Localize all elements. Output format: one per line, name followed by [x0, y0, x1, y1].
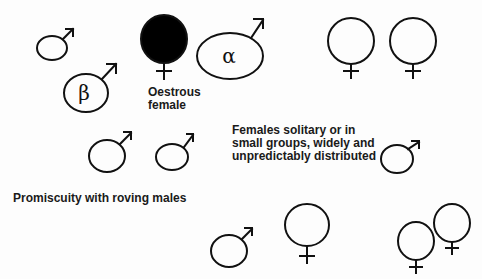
female-symbol	[390, 18, 436, 78]
female-symbol	[434, 204, 470, 254]
beta-male-symbol: β	[64, 64, 116, 112]
females-distribution-note: Females solitary or in small groups, wid…	[232, 124, 376, 163]
male-symbol	[211, 228, 252, 267]
oestrous-female-symbol	[141, 15, 187, 79]
oestrous-female-label: Oestrous female	[148, 86, 201, 112]
alpha-male-symbol: α	[197, 19, 263, 79]
oestrous-label-line: female	[148, 99, 201, 112]
male-symbol	[381, 141, 419, 173]
female-symbol	[285, 204, 329, 263]
male-symbol	[156, 134, 193, 170]
male-symbol	[37, 29, 73, 60]
promiscuity-caption: Promiscuity with roving males	[13, 192, 186, 205]
male-symbol	[89, 132, 131, 172]
beta-symbol: β	[78, 81, 90, 105]
female-symbol	[398, 222, 434, 273]
alpha-symbol: α	[222, 44, 236, 68]
female-symbol	[328, 18, 374, 78]
note-line: unpredictably distributed	[232, 150, 376, 163]
mating-system-diagram: β α	[0, 0, 482, 279]
